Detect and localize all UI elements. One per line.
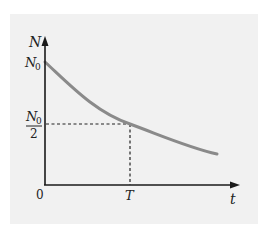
svg-text:0: 0 (35, 62, 41, 72)
n0-tick-label: N 0 (24, 55, 41, 72)
half-n0-tick-label: N 0 2 (25, 109, 42, 141)
svg-text:2: 2 (30, 127, 38, 141)
origin-label: 0 (36, 188, 44, 202)
y-axis-label: N (28, 34, 42, 50)
y-axis-arrow-icon (42, 36, 49, 46)
decay-chart: N N 0 N 0 2 0 T t (0, 0, 267, 236)
x-axis-label: t (230, 191, 236, 207)
decay-curve (45, 62, 217, 154)
x-axis-arrow-icon (230, 182, 240, 189)
half-life-tick-label: T (125, 188, 135, 203)
svg-text:0: 0 (36, 116, 42, 126)
